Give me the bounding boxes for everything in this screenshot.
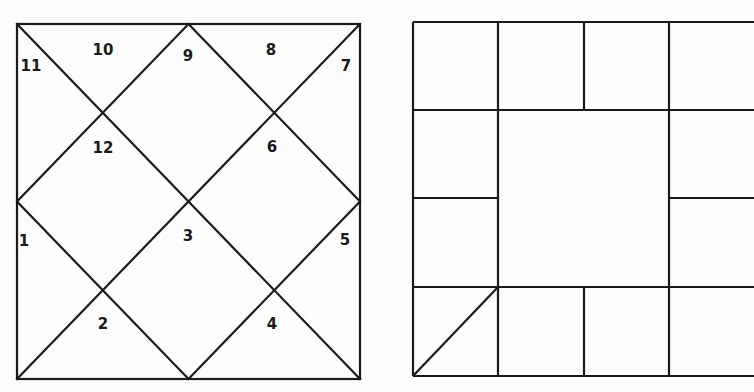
house-2-label: 2 — [98, 317, 108, 332]
ascendant-diagonal — [413, 287, 498, 376]
house-4-label: 4 — [267, 317, 277, 332]
house-8-label: 8 — [266, 43, 276, 58]
south-indian-chart — [413, 22, 754, 376]
house-1-label: 1 — [19, 234, 29, 249]
house-5-label: 5 — [340, 233, 350, 248]
house-3-label: 3 — [183, 229, 193, 244]
house-12-label: 12 — [93, 141, 114, 156]
house-9-label: 9 — [183, 49, 193, 64]
house-10-label: 10 — [93, 43, 114, 58]
house-7-label: 7 — [341, 59, 351, 74]
house-6-label: 6 — [267, 140, 277, 155]
horoscope-charts: 1 2 3 4 5 6 7 8 9 10 11 12 — [0, 0, 754, 392]
house-11-label: 11 — [21, 59, 42, 74]
north-indian-chart — [0, 0, 754, 392]
